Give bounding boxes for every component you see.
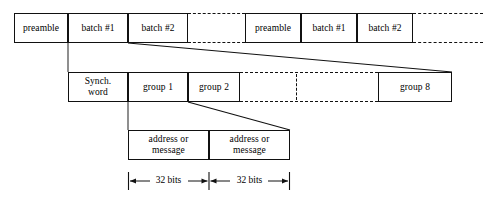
group-row-continuation	[240, 72, 378, 102]
protocol-frame-diagram: preamble batch #1 batch #2 preamble batc…	[0, 0, 483, 202]
cell-synch-word[interactable]: Synch. word	[68, 72, 128, 102]
batch-row-continuation-1	[188, 13, 245, 43]
dimension-label-32-bits-2: 32 bits	[209, 175, 290, 185]
cell-batch-1[interactable]: batch #1	[68, 13, 128, 43]
group1-expansion-line	[188, 102, 290, 130]
cell-group-8[interactable]: group 8	[378, 72, 452, 102]
cell-group-1[interactable]: group 1	[128, 72, 188, 102]
batch2-expansion-line	[128, 43, 452, 72]
cell-address-or-message-1[interactable]: address or message	[128, 130, 209, 160]
cell-address-or-message-2[interactable]: address or message	[209, 130, 290, 160]
cell-preamble-2[interactable]: preamble	[245, 13, 301, 43]
cell-batch-2-second[interactable]: batch #2	[357, 13, 413, 43]
batch-row-continuation-2	[413, 13, 483, 43]
cell-preamble-1[interactable]: preamble	[14, 13, 68, 43]
dimension-label-32-bits-1: 32 bits	[128, 175, 209, 185]
cell-batch-1-second[interactable]: batch #1	[301, 13, 357, 43]
cell-batch-2[interactable]: batch #2	[128, 13, 188, 43]
group-row-ellipsis-divider	[296, 74, 297, 100]
cell-group-2[interactable]: group 2	[188, 72, 240, 102]
